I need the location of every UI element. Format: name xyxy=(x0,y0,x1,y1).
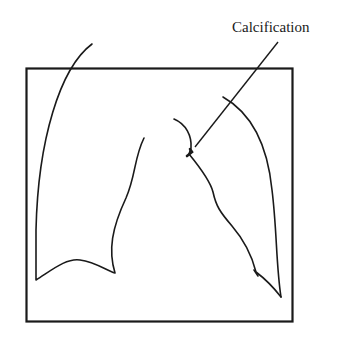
diagram-canvas: Calcification xyxy=(0,0,356,345)
chest-outline-drawing xyxy=(0,0,356,345)
annotation-pointer-line xyxy=(195,42,278,147)
mediastinal-border xyxy=(174,119,281,297)
left-lung-outer-outline xyxy=(223,97,281,297)
film-frame xyxy=(27,69,293,322)
calcification-mark xyxy=(187,149,192,156)
right-lung-outline xyxy=(36,44,144,280)
